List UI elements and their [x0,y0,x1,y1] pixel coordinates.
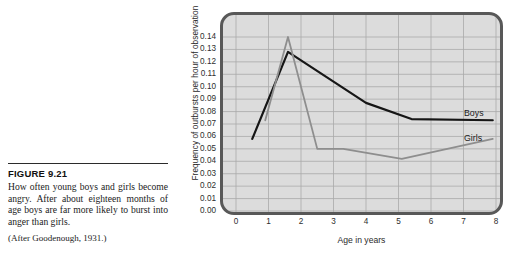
series-label-boys: Boys [464,108,484,118]
figure-chart: Frequency of outbursts per hour of obser… [176,4,528,270]
plot-area [220,12,503,215]
x-axis-tick: 1 [266,217,271,226]
y-axis-tick: 0.10 [200,83,216,91]
figure-source-citation: (After Goodenough, 1931.) [8,233,168,244]
x-axis-tick: 3 [331,217,336,226]
y-axis-tick: 0.04 [200,157,216,165]
y-axis-tick: 0.14 [200,33,216,41]
plot-gridlines [223,15,500,212]
x-axis-tick-labels: 012345678 [220,217,503,229]
y-axis-tick: 0.08 [200,108,216,116]
x-axis-title: Age in years [220,235,503,245]
y-axis-tick: 0.13 [200,45,216,53]
y-axis-tick: 0.06 [200,132,216,140]
figure-caption-text: How often young boys and girls become an… [8,181,168,227]
y-axis-tick: 0.03 [200,170,216,178]
figure-caption-block: FIGURE 9.21 How often young boys and gir… [8,168,168,244]
figure-label: FIGURE 9.21 [8,168,168,179]
caption-divider [8,163,168,164]
y-axis-tick: 0.00 [200,207,216,215]
x-axis-tick: 4 [364,217,369,226]
y-axis-tick: 0.12 [200,58,216,66]
y-axis-tick: 0.09 [200,95,216,103]
x-axis-tick: 7 [461,217,466,226]
x-axis-tick: 5 [396,217,401,226]
y-axis-tick: 0.11 [201,70,216,78]
y-axis-tick: 0.07 [200,120,216,128]
y-axis-tick: 0.01 [200,195,216,203]
y-axis-tick: 0.05 [200,145,216,153]
x-axis-tick: 2 [299,217,304,226]
x-axis-tick: 8 [494,217,499,226]
series-label-girls: Girls [464,133,482,143]
x-axis-tick: 0 [234,217,239,226]
y-axis-tick-labels: 0.140.130.120.110.100.090.080.070.060.05… [190,12,216,215]
y-axis-tick: 0.02 [200,182,216,190]
x-axis-tick: 6 [429,217,434,226]
